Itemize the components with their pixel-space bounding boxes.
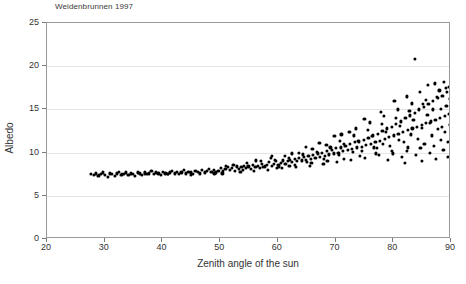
data-point bbox=[253, 169, 256, 172]
data-point bbox=[426, 113, 429, 116]
data-point bbox=[365, 143, 368, 146]
data-point bbox=[339, 139, 342, 142]
data-point bbox=[180, 171, 183, 174]
x-tick-label: 70 bbox=[320, 242, 350, 252]
x-tick-label: 20 bbox=[31, 242, 61, 252]
data-point bbox=[284, 162, 287, 165]
data-point bbox=[336, 161, 339, 164]
x-tick-label: 50 bbox=[204, 242, 234, 252]
data-point bbox=[423, 142, 426, 145]
data-point bbox=[402, 141, 405, 144]
data-point bbox=[318, 142, 321, 145]
data-point bbox=[414, 154, 417, 157]
data-point bbox=[432, 99, 435, 102]
data-point bbox=[447, 141, 449, 144]
data-point bbox=[424, 98, 427, 101]
data-point bbox=[348, 130, 351, 133]
x-tick-mark bbox=[392, 238, 393, 242]
data-point bbox=[433, 82, 436, 85]
data-point bbox=[297, 151, 300, 154]
data-point bbox=[310, 161, 313, 164]
data-point bbox=[328, 153, 331, 156]
data-point bbox=[97, 173, 100, 176]
data-point bbox=[439, 138, 442, 141]
x-tick-label: 90 bbox=[435, 242, 465, 252]
data-point bbox=[411, 127, 414, 130]
data-point bbox=[415, 125, 418, 128]
data-point bbox=[342, 157, 345, 160]
data-point bbox=[335, 147, 338, 150]
data-point bbox=[213, 172, 216, 175]
data-point bbox=[265, 163, 268, 166]
data-point bbox=[332, 152, 335, 155]
data-point bbox=[430, 134, 433, 137]
y-tick-mark bbox=[42, 65, 46, 66]
y-tick-mark bbox=[42, 195, 46, 196]
data-point bbox=[106, 175, 109, 178]
data-point bbox=[403, 161, 406, 164]
data-point bbox=[370, 135, 373, 138]
x-tick-mark bbox=[219, 238, 220, 242]
data-point bbox=[159, 173, 162, 176]
data-point bbox=[434, 118, 437, 121]
data-point bbox=[388, 144, 391, 147]
data-point bbox=[418, 91, 421, 94]
y-axis-label: Albedo bbox=[2, 108, 16, 168]
data-point bbox=[351, 150, 354, 153]
data-point bbox=[309, 157, 312, 160]
data-point bbox=[360, 145, 363, 148]
data-point bbox=[421, 126, 424, 129]
data-point bbox=[233, 169, 236, 172]
y-tick-label: 5 bbox=[13, 190, 39, 200]
data-point bbox=[341, 149, 344, 152]
data-point bbox=[446, 155, 449, 158]
data-point bbox=[113, 174, 116, 177]
data-point bbox=[198, 172, 201, 175]
data-point bbox=[322, 162, 325, 165]
data-point bbox=[438, 89, 441, 92]
data-point bbox=[406, 95, 409, 98]
data-point bbox=[311, 148, 314, 151]
data-point bbox=[337, 154, 340, 157]
x-tick-mark bbox=[46, 238, 47, 242]
y-tick-mark bbox=[42, 22, 46, 23]
data-point bbox=[266, 168, 269, 171]
x-tick-label: 30 bbox=[89, 242, 119, 252]
data-point bbox=[406, 129, 409, 132]
data-point bbox=[408, 110, 411, 113]
data-point bbox=[290, 152, 293, 155]
data-point bbox=[352, 134, 355, 137]
data-point bbox=[280, 167, 283, 170]
data-point bbox=[391, 152, 394, 155]
x-tick-mark bbox=[335, 238, 336, 242]
data-point bbox=[440, 107, 443, 110]
data-point bbox=[393, 99, 396, 102]
data-point bbox=[275, 167, 278, 170]
data-point bbox=[363, 117, 366, 120]
data-point bbox=[294, 166, 297, 169]
data-point bbox=[283, 154, 286, 157]
data-point bbox=[434, 157, 437, 160]
data-point bbox=[407, 146, 410, 149]
data-point bbox=[419, 147, 422, 150]
data-point bbox=[438, 116, 441, 119]
data-point bbox=[272, 162, 275, 165]
chart-title: Weidenbrunnen 1997 bbox=[55, 2, 133, 11]
data-point bbox=[433, 144, 436, 147]
x-tick-label: 40 bbox=[146, 242, 176, 252]
data-point bbox=[376, 147, 379, 150]
y-tick-mark bbox=[42, 108, 46, 109]
data-point bbox=[379, 110, 382, 113]
data-point bbox=[441, 94, 444, 97]
data-point bbox=[366, 129, 369, 132]
y-tick-label: 20 bbox=[13, 60, 39, 70]
data-point bbox=[346, 148, 349, 151]
data-point bbox=[134, 174, 137, 177]
data-point bbox=[420, 160, 423, 163]
data-point bbox=[325, 143, 328, 146]
data-point bbox=[404, 116, 407, 119]
data-point bbox=[394, 116, 397, 119]
data-point bbox=[314, 156, 317, 159]
data-point bbox=[437, 128, 440, 131]
data-point bbox=[383, 137, 386, 140]
